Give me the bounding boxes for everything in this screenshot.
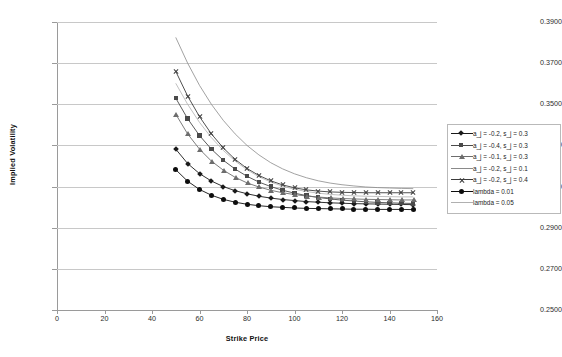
x-tick-mark [152,310,153,314]
legend-item: lambda = 0.05 [451,197,557,209]
legend-key-icon [451,128,473,139]
data-point-marker [173,68,179,74]
data-point-marker [327,189,333,195]
x-tick-label: 40 [137,314,167,323]
legend-item-label: lambda = 0.01 [473,187,514,196]
x-tick-label: 80 [232,314,262,323]
x-tick-mark [57,310,58,314]
legend-item: lambda = 0.01 [451,186,557,198]
legend-item: a_j = -0.2, s_j = 0.3 [451,128,557,140]
legend-item-label: a_j = -0.4, s_j = 0.3 [473,141,528,150]
data-point-marker [292,192,298,197]
y-axis-title: Implied Volatility [8,95,17,215]
data-point-marker [328,206,333,211]
legend-key-icon [451,197,473,208]
data-point-marker [245,174,249,178]
legend-item-label: a_j = -0.1, s_j = 0.3 [473,152,528,161]
x-tick-mark [105,310,106,314]
data-point-marker [375,190,381,196]
data-point-marker [316,206,321,211]
data-point-marker [221,168,227,173]
data-point-marker [339,189,345,195]
data-point-marker [316,195,322,200]
data-point-marker [398,190,404,196]
data-point-marker [208,131,214,137]
data-point-marker [256,184,262,189]
series-line [176,37,414,188]
data-point-marker [173,112,179,117]
data-point-marker [185,116,189,120]
data-point-marker [399,207,404,212]
data-point-marker [232,156,238,162]
data-point-marker [268,178,274,184]
data-point-marker [221,197,226,202]
data-point-marker [209,193,214,198]
data-point-marker [220,145,226,151]
data-point-marker [387,197,393,202]
data-point-marker [363,190,369,196]
data-point-marker [387,190,393,196]
data-point-marker [340,196,346,201]
legend-item-label: a_j = -0.2, s_j = 0.3 [473,129,528,138]
y-tick-label: 0.2900 [516,224,562,231]
data-point-marker [185,179,190,184]
y-tick-label: 0.3500 [516,100,562,107]
x-tick-label: 20 [90,314,120,323]
data-point-marker [280,205,285,210]
legend-item: a_j = -0.1, s_j = 0.3 [451,151,557,163]
y-tick-label: 0.2700 [516,265,562,272]
y-tick-label: 0.2500 [516,306,562,313]
data-point-marker [351,196,357,201]
data-point-marker [411,207,416,212]
data-point-marker [363,197,369,202]
data-point-marker [375,197,381,202]
data-point-marker [185,131,191,136]
x-tick-mark [295,310,296,314]
data-point-marker [197,133,201,137]
legend-item-label: lambda = 0.05 [473,198,514,207]
data-point-marker [233,175,239,180]
data-point-marker [304,194,310,199]
data-point-marker [328,195,334,200]
x-tick-mark [200,310,201,314]
data-point-marker [399,197,405,202]
data-point-marker [197,147,203,152]
plot-area [57,22,437,310]
data-point-marker [197,187,202,192]
data-point-marker [244,165,250,171]
data-point-marker [209,159,215,164]
x-tick-label: 100 [280,314,310,323]
x-axis-title: Strike Price [57,334,437,343]
x-tick-mark [247,310,248,314]
data-point-marker [303,187,309,193]
chart-root: 0.25000.27000.29000.31000.33000.35000.37… [0,0,562,357]
data-point-marker [387,207,392,212]
data-point-marker [315,188,321,194]
legend-key-icon [451,163,473,174]
data-point-marker [245,180,251,185]
data-point-marker [233,200,238,205]
data-point-marker [375,207,380,212]
x-tick-label: 140 [375,314,405,323]
data-point-marker [268,188,274,193]
data-point-marker [280,190,286,195]
x-tick-label: 120 [327,314,357,323]
data-point-marker [245,202,250,207]
data-point-marker [197,114,203,120]
data-point-marker [410,190,416,196]
data-point-marker [233,167,237,171]
data-point-marker [185,93,191,99]
x-tick-mark [342,310,343,314]
y-tick-label: 0.3700 [516,59,562,66]
data-point-marker [411,197,417,202]
legend-item: a_j = -0.2, s_j = 0.1 [451,163,557,175]
data-point-marker [304,206,309,211]
data-point-marker [174,96,178,100]
data-point-marker [363,207,368,212]
x-tick-mark [390,310,391,314]
legend-item: a_j = -0.2, s_j = 0.4 [451,174,557,186]
legend-key-icon [451,174,473,185]
legend-key-icon [451,151,473,162]
y-tick-label: 0.3900 [516,18,562,25]
data-point-marker [351,190,357,196]
